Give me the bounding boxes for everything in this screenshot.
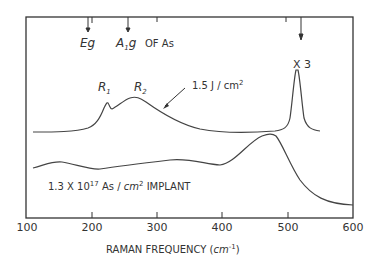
fluence-pointer	[165, 88, 185, 106]
r1-label: R1	[98, 80, 111, 96]
a1g-text: A	[116, 36, 124, 50]
implant-sup: 17	[90, 180, 99, 188]
fluence-text: 1.5 J / cm	[192, 80, 239, 91]
fluence-label: 1.5 J / cm2	[192, 79, 243, 91]
implant-text-a: 1.3 X 10	[48, 181, 90, 192]
eg-text: Eg	[80, 36, 95, 50]
xlabel-cm: cm	[214, 244, 229, 255]
tick-200: 200	[82, 221, 103, 234]
eg-label: Eg	[80, 36, 95, 50]
chart-canvas	[0, 0, 383, 267]
x-axis-label: RAMAN FREQUENCY (cm-1)	[106, 243, 240, 255]
implant-text-b: As /	[99, 181, 124, 192]
fluence-sup: 2	[239, 79, 243, 87]
r2-sub: 2	[142, 88, 146, 96]
xlabel-sup: -1	[229, 243, 236, 251]
a1g-label: A1g	[116, 36, 136, 52]
xlabel-text-a: RAMAN FREQUENCY (	[106, 244, 214, 255]
of-as-label: OF As	[145, 38, 174, 49]
series-implant-curve	[33, 134, 353, 205]
implant-label: 1.3 X 1017 As / cm2 IMPLANT	[48, 180, 190, 192]
a1g-g: g	[129, 36, 137, 50]
xlabel-text-b: )	[236, 244, 240, 255]
tick-500: 500	[278, 221, 299, 234]
x3-text: X 3	[293, 58, 311, 71]
implant-cm: cm	[124, 181, 139, 192]
x3-label: X 3	[293, 58, 311, 71]
series-1-5-J-curve	[33, 70, 320, 132]
tick-100: 100	[17, 221, 38, 234]
tick-600: 600	[343, 221, 364, 234]
r1-sub: 1	[106, 88, 110, 96]
fluence-arrowhead	[163, 103, 169, 109]
r2-label: R2	[134, 80, 147, 96]
implant-text-c: IMPLANT	[143, 181, 190, 192]
tick-400: 400	[212, 221, 233, 234]
tick-300: 300	[147, 221, 168, 234]
of-as-text: OF As	[145, 38, 174, 49]
